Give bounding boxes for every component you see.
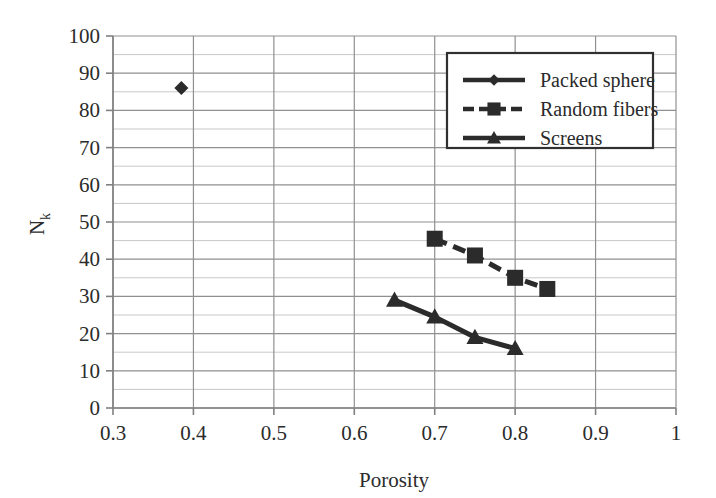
- x-tick-label: 1: [671, 421, 682, 445]
- y-tick-label: 90: [79, 61, 100, 85]
- x-tick-label: 0.7: [422, 421, 448, 445]
- y-tick-label: 80: [79, 98, 100, 122]
- y-tick-label: 10: [79, 359, 100, 383]
- x-tick-label: 0.9: [582, 421, 608, 445]
- x-axis-title: Porosity: [359, 468, 430, 492]
- y-tick-label: 40: [79, 247, 100, 271]
- x-tick-label: 0.3: [100, 421, 126, 445]
- scatter-chart-svg: 0102030405060708090100 0.30.40.50.60.70.…: [0, 0, 716, 498]
- x-tick-label: 0.4: [180, 421, 207, 445]
- marker-square: [427, 231, 443, 247]
- chart-figure: 0102030405060708090100 0.30.40.50.60.70.…: [0, 0, 716, 498]
- legend-label: Random fibers: [540, 98, 659, 120]
- marker-square: [507, 270, 523, 286]
- marker-square: [539, 281, 555, 297]
- legend-label: Screens: [540, 127, 602, 149]
- x-tick-label: 0.8: [502, 421, 528, 445]
- marker-square: [467, 247, 483, 263]
- y-tick-label: 70: [79, 136, 100, 160]
- y-tick-label: 50: [79, 210, 100, 234]
- x-tick-label: 0.6: [341, 421, 367, 445]
- legend-label: Packed sphere: [540, 69, 655, 92]
- marker-square: [487, 102, 500, 115]
- y-tick-label: 30: [79, 284, 100, 308]
- chart-legend: Packed sphereRandom fibersScreens: [447, 53, 659, 149]
- y-tick-label: 60: [79, 173, 100, 197]
- y-tick-label: 20: [79, 322, 100, 346]
- y-tick-label: 0: [90, 396, 101, 420]
- y-tick-label: 100: [69, 24, 101, 48]
- x-tick-label: 0.5: [261, 421, 287, 445]
